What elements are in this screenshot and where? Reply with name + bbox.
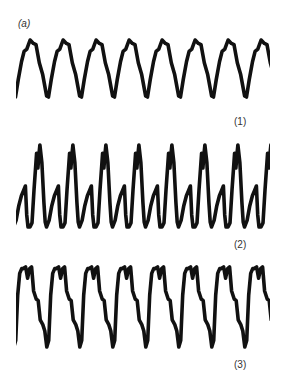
trace-label-1: (1) xyxy=(234,116,246,127)
trace-label-3: (3) xyxy=(234,359,246,370)
trace-2 xyxy=(0,145,283,227)
waveform-chart xyxy=(0,0,283,386)
trace-1 xyxy=(0,40,283,97)
trace-label-2: (2) xyxy=(234,239,246,250)
trace-3 xyxy=(0,267,283,347)
